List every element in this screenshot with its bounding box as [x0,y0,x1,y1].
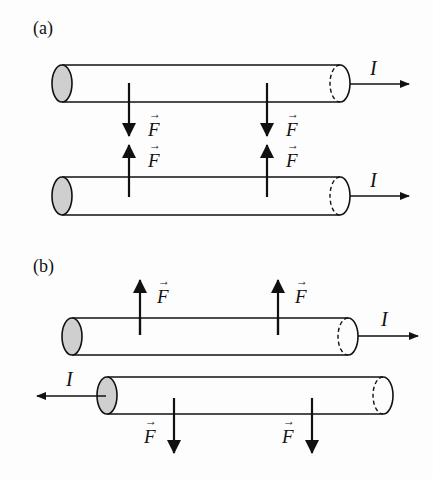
panel-a-bottom-wire [52,177,350,215]
force-label: F → [285,138,299,171]
svg-text:F: F [285,119,298,140]
force-label: F → [294,274,308,307]
current-label: I [380,308,389,330]
svg-text:F: F [147,119,160,140]
svg-text:→: → [283,414,295,428]
force-label: F → [285,107,299,140]
svg-text:F: F [294,286,307,307]
svg-text:→: → [287,138,299,152]
svg-text:F: F [143,426,156,447]
panel-a-label: (a) [33,18,53,39]
svg-text:→: → [287,107,299,121]
svg-text:F: F [147,150,160,171]
wire-cross-section [62,318,82,355]
svg-text:→: → [296,274,308,288]
panel-b-label: (b) [33,256,54,277]
svg-text:F: F [156,286,169,307]
force-label: F → [147,138,161,171]
panel-b-top-wire [62,318,358,355]
force-label: F → [147,107,161,140]
panel-a-top-wire [52,65,350,102]
panel-b-bottom-wire [97,377,393,414]
wire-cross-section [52,65,72,102]
svg-text:→: → [158,274,170,288]
wire-cross-section [52,177,72,215]
svg-text:→: → [149,138,161,152]
current-label: I [65,368,74,390]
magnetic-force-diagram: (a) I F → F → F → F → I (b) [0,0,433,479]
svg-text:→: → [145,414,157,428]
force-label: F → [281,414,295,447]
force-label: F → [143,414,157,447]
current-label: I [369,169,378,191]
current-label: I [369,57,378,79]
force-label: F → [156,274,170,307]
diagram-svg: (a) I F → F → F → F → I (b) [0,0,433,479]
svg-text:F: F [285,150,298,171]
svg-text:F: F [281,426,294,447]
svg-text:→: → [149,107,161,121]
